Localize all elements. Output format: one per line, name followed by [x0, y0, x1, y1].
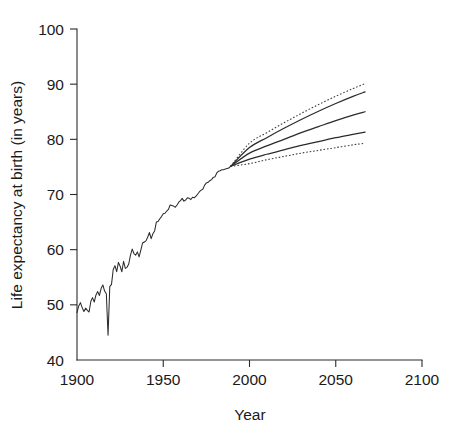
series-layer: [77, 84, 365, 336]
series-line-high-projection: [231, 92, 366, 166]
series-line-historical-life-expectancy: [77, 166, 231, 335]
series-line-upper-confidence-bound: [231, 84, 366, 167]
y-axis-ticks: [70, 29, 77, 305]
plot-axes: [70, 29, 422, 367]
life-expectancy-chart: 405060708090100 19001950200020502100 Lif…: [0, 0, 455, 434]
y-tick-label: 50: [47, 296, 65, 313]
y-tick-label: 90: [47, 76, 65, 93]
chart-figure: 405060708090100 19001950200020502100 Lif…: [0, 0, 455, 434]
y-axis-tick-labels: 405060708090100: [38, 21, 64, 369]
y-axis-title: Life expectancy at birth (in years): [8, 81, 25, 309]
x-tick-label: 2100: [405, 371, 440, 388]
x-axis-tick-labels: 19001950200020502100: [60, 371, 440, 388]
x-tick-label: 1950: [146, 371, 181, 388]
x-tick-label: 1900: [60, 371, 95, 388]
series-line-low-projection: [231, 132, 366, 166]
y-tick-label: 100: [38, 21, 64, 38]
x-axis-ticks: [163, 360, 422, 367]
y-tick-label: 60: [47, 241, 65, 258]
x-axis-title: Year: [234, 406, 265, 423]
y-tick-label: 70: [47, 186, 65, 203]
y-tick-label: 40: [47, 352, 65, 369]
y-tick-label: 80: [47, 131, 65, 148]
x-tick-label: 2050: [319, 371, 354, 388]
page-header-remnant: [255, 0, 455, 8]
x-tick-label: 2000: [232, 371, 267, 388]
